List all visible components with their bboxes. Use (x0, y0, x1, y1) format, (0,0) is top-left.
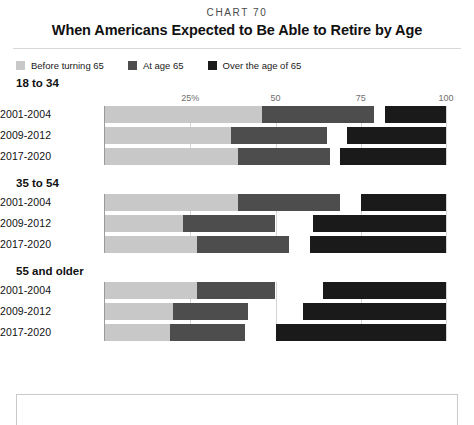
chart-group: 35 to 542001-20042009-20122017-2020 (0, 177, 474, 253)
group-title: 18 to 34 (16, 77, 474, 89)
legend-item-over-65: Over the age of 65 (208, 60, 302, 71)
chart-row: 2017-2020 (0, 324, 474, 341)
bar-segment[interactable] (303, 303, 446, 320)
bar-segment[interactable] (105, 215, 183, 232)
bar-track (105, 194, 446, 211)
bar-segment[interactable] (105, 303, 173, 320)
chart-row: 2009-2012 (0, 215, 474, 232)
row-category-label: 2001-2004 (0, 284, 96, 296)
x-axis-tick-label: 25% (181, 93, 199, 103)
chart-rows: 2001-20042009-20122017-2020 (0, 106, 474, 165)
bar-track (105, 282, 446, 299)
row-category-label: 2009-2012 (0, 217, 96, 229)
chart-row: 2017-2020 (0, 236, 474, 253)
bar-segment[interactable] (262, 106, 375, 123)
bar-segment[interactable] (183, 215, 275, 232)
chart-group: 55 and older2001-20042009-20122017-2020 (0, 265, 474, 341)
bar-track (105, 324, 446, 341)
row-category-label: 2009-2012 (0, 305, 96, 317)
bar-segment[interactable] (105, 106, 262, 123)
chart-row: 2001-2004 (0, 106, 474, 123)
bar-track (105, 215, 446, 232)
chart-group: 18 to 3425%50751002001-20042009-20122017… (0, 77, 474, 165)
legend-label-over-65: Over the age of 65 (223, 60, 302, 71)
bar-segment[interactable] (105, 282, 197, 299)
row-category-label: 2017-2020 (0, 238, 96, 250)
chart-legend: Before turning 65 At age 65 Over the age… (16, 60, 474, 71)
chart-row: 2001-2004 (0, 194, 474, 211)
bar-segment[interactable] (238, 148, 330, 165)
bar-segment[interactable] (347, 127, 446, 144)
chart-row: 2009-2012 (0, 127, 474, 144)
chart-row: 2009-2012 (0, 303, 474, 320)
bar-segment[interactable] (231, 127, 326, 144)
legend-label-at-65: At age 65 (143, 60, 184, 71)
bar-track (105, 303, 446, 320)
x-axis-tick-label: 75 (356, 93, 366, 103)
row-category-label: 2017-2020 (0, 326, 96, 338)
legend-label-before-65: Before turning 65 (31, 60, 104, 71)
chart-rows: 2001-20042009-20122017-2020 (0, 194, 474, 253)
row-category-label: 2017-2020 (0, 150, 96, 162)
bar-segment[interactable] (340, 148, 446, 165)
legend-item-at-65: At age 65 (128, 60, 184, 71)
chart-plot-area: 18 to 3425%50751002001-20042009-20122017… (0, 77, 474, 341)
bar-track (105, 106, 446, 123)
bar-segment[interactable] (105, 236, 197, 253)
bar-segment[interactable] (313, 215, 446, 232)
bar-segment[interactable] (197, 282, 275, 299)
row-category-label: 2001-2004 (0, 196, 96, 208)
group-title: 55 and older (16, 265, 474, 277)
bar-segment[interactable] (105, 127, 231, 144)
chart-rows: 2001-20042009-20122017-2020 (0, 282, 474, 341)
x-axis-tick-labels: 25%5075100 (0, 93, 474, 106)
row-category-label: 2009-2012 (0, 129, 96, 141)
legend-swatch-before-65 (16, 61, 25, 70)
group-title: 35 to 54 (16, 177, 474, 189)
row-category-label: 2001-2004 (0, 108, 96, 120)
chart-row: 2017-2020 (0, 148, 474, 165)
y-axis-line (104, 282, 105, 341)
bar-segment[interactable] (361, 194, 446, 211)
bar-segment[interactable] (310, 236, 446, 253)
bar-segment[interactable] (105, 324, 170, 341)
y-axis-line (104, 194, 105, 253)
bar-segment[interactable] (105, 148, 238, 165)
bar-segment[interactable] (385, 106, 446, 123)
footnote-box (16, 394, 458, 425)
bar-segment[interactable] (276, 324, 447, 341)
legend-swatch-over-65 (208, 61, 217, 70)
bar-track (105, 148, 446, 165)
bar-segment[interactable] (173, 303, 248, 320)
bar-track (105, 236, 446, 253)
x-axis-tick-label: 100 (438, 93, 453, 103)
page-title: When Americans Expected to Be Able to Re… (0, 22, 474, 38)
bar-segment[interactable] (323, 282, 446, 299)
bar-segment[interactable] (170, 324, 245, 341)
chart-number: CHART 70 (0, 7, 474, 18)
x-axis-tick-label: 50 (270, 93, 280, 103)
title-divider (13, 48, 461, 49)
legend-item-before-65: Before turning 65 (16, 60, 104, 71)
bar-segment[interactable] (105, 194, 238, 211)
bar-segment[interactable] (238, 194, 340, 211)
bar-segment[interactable] (197, 236, 289, 253)
legend-swatch-at-65 (128, 61, 137, 70)
chart-row: 2001-2004 (0, 282, 474, 299)
bar-track (105, 127, 446, 144)
y-axis-line (104, 106, 105, 165)
